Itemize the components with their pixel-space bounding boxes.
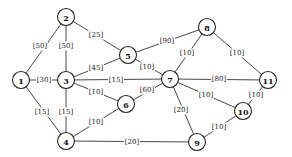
edge-weight-label: [50] [32,42,48,51]
node-8: 8 [199,19,216,36]
node-label: 2 [63,13,69,23]
edge-weight-text: [25] [89,31,104,39]
edge-weight-text: [20] [125,138,140,146]
node-6: 6 [118,96,135,113]
node-label: 8 [204,23,210,33]
edge-weight-text: [10] [140,63,155,71]
node-2: 2 [58,9,75,26]
edge-weight-text: [30] [37,76,52,84]
edge-weight-text: [10] [212,123,227,131]
edge-weight-text: [10] [199,91,214,99]
node-label: 9 [194,138,200,148]
edge-weight-text: [10] [180,49,195,57]
edge-weight-text: [80] [212,75,227,83]
graph-diagram: [50][50][25][30][45][15][10][15][15][10]… [0,0,292,157]
edge-weight-label: [60] [139,86,155,95]
node-10: 10 [235,103,252,120]
edge-weight-label: [25] [88,31,104,40]
edge-weight-text: [10] [249,91,264,99]
edge-weight-text: [15] [59,108,74,116]
edge-weight-text: [50] [33,42,48,50]
edge-weight-text: [15] [35,108,50,116]
node-label: 1 [18,76,24,86]
node-4: 4 [58,133,75,150]
edge-weight-text: [20] [174,106,189,114]
edge-weight-label: [10] [198,91,214,100]
edge-weight-label: [10] [248,91,264,100]
edge-weight-label: [10] [179,49,195,58]
edge-weight-label: [10] [139,63,155,72]
edge-weight-text: [60] [140,86,155,94]
edge-weight-label: [15] [108,76,124,85]
edge-weight-label: [10] [211,123,227,132]
edge-weight-label: [30] [36,76,52,85]
edge-weight-label: [10] [88,118,104,127]
node-label: 5 [125,51,131,61]
edge-weight-label: [15] [34,108,50,117]
node-label: 7 [167,75,173,85]
edge-weight-text: [50] [59,42,74,50]
node-3: 3 [58,72,75,89]
node-1: 1 [13,72,30,89]
edge-weight-text: [15] [109,76,124,84]
edge-weight-label: [90] [159,37,175,46]
node-label: 11 [262,76,273,86]
node-label: 6 [123,100,129,110]
edge-weight-text: [10] [230,49,245,57]
node-9: 9 [189,134,206,151]
node-label: 10 [237,107,249,117]
node-label: 3 [63,76,69,86]
node-11: 11 [260,72,277,89]
edge-weight-label: [20] [124,138,140,147]
edge-weight-label: [80] [211,75,227,84]
edge-weight-text: [10] [89,88,104,96]
edge-weight-label: [10] [88,88,104,97]
edge-weight-label: [45] [88,64,104,73]
node-5: 5 [120,47,137,64]
node-7: 7 [162,71,179,88]
edge-weight-text: [10] [89,118,104,126]
edge-weight-label: [50] [58,42,74,51]
edge-weight-label: [20] [173,106,189,115]
node-label: 4 [63,137,69,147]
edge-weight-text: [90] [160,37,175,45]
edge-weight-label: [15] [58,108,74,117]
edge-weight-label: [10] [229,49,245,58]
edge-weight-text: [45] [89,64,104,72]
